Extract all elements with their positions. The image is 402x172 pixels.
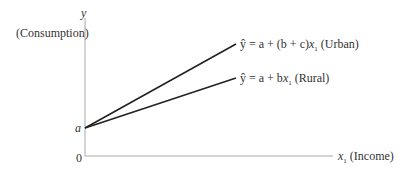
rural-tag: (Rural) <box>295 71 330 85</box>
y-axis-description: (Consumption) <box>16 26 89 40</box>
origin-label: 0 <box>76 151 82 165</box>
urban-equation-sub: 1 <box>314 45 318 53</box>
rural-equation-text: ŷ = a + b <box>240 71 283 85</box>
urban-equation-text: ŷ = a + (b + c) <box>240 37 309 51</box>
rural-equation-sub: 1 <box>288 79 292 87</box>
x-axis-sub: 1 <box>343 157 347 165</box>
urban-equation: ŷ = a + (b + c)x1 (Urban) <box>240 37 359 56</box>
rural-equation: ŷ = a + bx1 (Rural) <box>240 71 329 90</box>
y-axis-label: y <box>81 6 86 20</box>
x-axis-label: x1 (Income) <box>338 149 394 168</box>
intercept-label: a <box>75 121 81 135</box>
x-axis-description: (Income) <box>350 149 394 163</box>
urban-tag: (Urban) <box>321 37 359 51</box>
